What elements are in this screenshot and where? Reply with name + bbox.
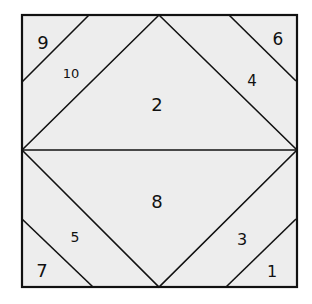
piece-label-9: 9 <box>37 32 48 53</box>
piece-label-4: 4 <box>247 72 257 90</box>
piece-label-3: 3 <box>237 230 247 249</box>
outer-square <box>22 15 297 287</box>
piece-label-10: 10 <box>63 66 80 81</box>
piece-label-7: 7 <box>36 260 47 281</box>
piece-label-2: 2 <box>151 94 162 115</box>
quilt-block-diagram: 12345678910 <box>0 0 312 304</box>
piece-label-1: 1 <box>267 262 277 281</box>
piece-label-8: 8 <box>151 191 162 212</box>
piece-label-6: 6 <box>273 29 284 49</box>
piece-label-5: 5 <box>71 229 80 245</box>
